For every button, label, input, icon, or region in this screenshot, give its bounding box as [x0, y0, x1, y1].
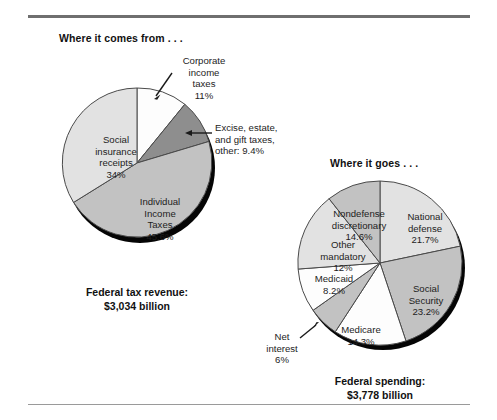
label-social-security: Social Security 23.2% — [395, 283, 457, 318]
excise-callout-arrowhead — [185, 130, 192, 136]
label-value: 11% — [195, 90, 214, 101]
label-line: insurance — [95, 146, 137, 157]
label-line: income — [189, 67, 220, 78]
label-individual-income-taxes: Individual Income Taxes 45.6% — [122, 196, 198, 242]
caption-line: Federal tax revenue: — [86, 286, 188, 298]
caption-total: $3,778 billion — [347, 389, 413, 401]
label-value: 34% — [106, 169, 125, 180]
label-line: Taxes — [147, 219, 172, 230]
left-chart-title: Where it comes from . . . — [59, 32, 183, 44]
label-line: interest — [266, 343, 297, 354]
label-value: 14.3% — [347, 336, 374, 347]
label-line: Other — [331, 239, 355, 250]
label-line: and gift taxes, — [215, 134, 275, 145]
label-value: 45.6% — [146, 231, 173, 242]
label-net-interest: Net interest 6% — [258, 331, 306, 366]
label-value: 21.7% — [411, 234, 438, 245]
caption-total: $3,034 billion — [104, 300, 170, 312]
label-nondefense-discretionary: Nondefense discretionary 14.6% — [318, 208, 400, 243]
label-line: defense — [408, 223, 442, 234]
left-chart-caption: Federal tax revenue: $3,034 billion — [57, 286, 217, 313]
label-line: receipts — [99, 157, 133, 168]
label-line: Individual — [140, 196, 181, 207]
label-medicare: Medicare 14.3% — [330, 324, 392, 347]
label-line: mandatory — [320, 251, 365, 262]
label-national-defense: National defense 21.7% — [394, 211, 456, 246]
label-line: National — [407, 211, 442, 222]
corporate-callout-arrowhead — [154, 95, 161, 100]
bottom-divider-rule — [28, 404, 470, 405]
label-line: Net — [275, 331, 290, 342]
right-chart-caption: Federal spending: $3,778 billion — [300, 375, 460, 402]
label-social-insurance-receipts: Social insurance receipts 34% — [80, 134, 152, 180]
label-excise-estate-gift-other: Excise, estate, and gift taxes, other: 9… — [215, 122, 333, 157]
label-value: 8.2% — [323, 285, 345, 296]
label-line: Medicaid — [315, 273, 353, 284]
top-divider-rule — [28, 15, 470, 18]
caption-line: Federal spending: — [335, 375, 425, 387]
label-line: discretionary — [332, 220, 386, 231]
label-line: Corporate — [183, 55, 226, 66]
label-line: Nondefense — [333, 208, 385, 219]
label-line: Social — [103, 134, 129, 145]
label-line: Income — [144, 208, 175, 219]
label-other-mandatory: Other mandatory 12% — [310, 239, 376, 274]
figure-canvas: Where it comes from . . . Where it goes … — [0, 0, 497, 420]
label-line: Medicare — [341, 324, 380, 335]
pie-charts-graphic — [0, 0, 497, 420]
label-corporate-income-taxes: Corporate income taxes 11% — [165, 55, 243, 101]
label-value: other: 9.4% — [215, 145, 264, 156]
label-line: Social — [413, 283, 439, 294]
label-line: Excise, estate, — [215, 122, 277, 133]
label-value: 12% — [333, 262, 352, 273]
label-line: Security — [409, 295, 444, 306]
label-value: 23.2% — [412, 306, 439, 317]
net-interest-callout-arrowhead — [314, 322, 320, 328]
label-value: 6% — [275, 354, 289, 365]
label-line: taxes — [193, 78, 216, 89]
right-chart-title: Where it goes . . . — [330, 157, 418, 169]
label-medicaid: Medicaid 8.2% — [303, 273, 365, 296]
